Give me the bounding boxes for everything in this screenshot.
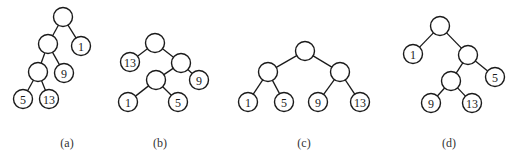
node-label: 9: [61, 67, 67, 81]
nodes-layer: 19513139151591315913: [14, 8, 505, 113]
tree-edge: [447, 33, 462, 48]
tree-edge: [138, 49, 148, 57]
internal-node: [459, 46, 478, 65]
node-circle: [431, 17, 450, 36]
tree-edge: [272, 80, 279, 93]
node-label: 9: [196, 74, 202, 88]
leaf-node: 9: [309, 93, 328, 112]
internal-node: [54, 8, 73, 27]
node-label: 1: [410, 48, 416, 62]
node-circle: [259, 63, 278, 82]
tree-edge: [475, 61, 487, 71]
tree-edge: [276, 56, 296, 68]
internal-node: [296, 42, 315, 61]
node-circle: [39, 35, 58, 54]
tree-edge: [253, 80, 262, 94]
internal-node: [146, 34, 165, 53]
leaf-node: 1: [239, 93, 258, 112]
leaf-node: 5: [14, 90, 33, 109]
node-label: 1: [125, 96, 131, 110]
tree-c-nodes: 15913: [239, 42, 370, 112]
tree-edge: [42, 81, 46, 90]
node-circle: [331, 63, 350, 82]
tree-edge: [188, 70, 192, 74]
tree-edge: [437, 88, 444, 96]
leaf-node: 1: [404, 45, 423, 64]
tree-edge: [324, 80, 335, 95]
caption-d: (d): [442, 136, 456, 150]
node-circle: [172, 54, 191, 73]
internal-node: [172, 54, 191, 73]
captions-layer: (a)(b)(c)(d): [60, 136, 456, 150]
caption-b: (b): [153, 136, 167, 150]
node-label: 5: [492, 71, 498, 85]
tree-edge: [41, 53, 45, 63]
leaf-node: 13: [40, 90, 59, 109]
node-circle: [459, 46, 478, 65]
node-label: 13: [43, 93, 55, 107]
tree-d-nodes: 15913: [404, 17, 505, 113]
tree-edge: [313, 56, 332, 67]
tree-edge: [135, 86, 148, 96]
tree-edge: [420, 33, 434, 47]
leaf-node: 5: [169, 93, 188, 112]
node-label: 5: [281, 96, 287, 110]
tree-edge: [163, 87, 172, 96]
leaf-node: 1: [119, 93, 138, 112]
caption-c: (c): [297, 136, 310, 150]
node-circle: [147, 71, 166, 90]
node-label: 5: [20, 93, 26, 107]
node-circle: [29, 63, 48, 82]
leaf-node: 5: [486, 68, 505, 87]
leaf-node: 9: [190, 71, 209, 90]
tree-edge: [53, 25, 59, 35]
internal-node: [431, 17, 450, 36]
tree-edge: [456, 63, 463, 73]
tree-edge: [53, 52, 60, 64]
node-label: 9: [428, 97, 434, 111]
tree-b-nodes: 13915: [119, 34, 209, 112]
binary-trees-figure: 19513139151591315913 (a)(b)(c)(d): [0, 0, 517, 164]
tree-edge: [68, 25, 76, 38]
internal-node: [147, 71, 166, 90]
node-circle: [442, 72, 461, 91]
tree-edge: [163, 49, 174, 57]
node-label: 13: [466, 97, 478, 111]
leaf-node: 5: [275, 93, 294, 112]
leaf-node: 9: [422, 94, 441, 113]
leaf-node: 13: [351, 93, 370, 112]
node-circle: [146, 34, 165, 53]
leaf-node: 13: [121, 53, 140, 72]
node-label: 13: [354, 96, 366, 110]
leaf-node: 13: [463, 94, 482, 113]
node-label: 5: [175, 96, 181, 110]
node-label: 1: [78, 40, 84, 54]
tree-edge: [164, 68, 173, 74]
node-circle: [54, 8, 73, 27]
node-label: 13: [124, 56, 136, 70]
leaf-node: 9: [55, 64, 74, 83]
internal-node: [442, 72, 461, 91]
internal-node: [331, 63, 350, 82]
tree-edge: [458, 88, 466, 96]
internal-node: [29, 63, 48, 82]
tree-edge: [28, 80, 34, 90]
node-label: 1: [245, 96, 251, 110]
node-circle: [296, 42, 315, 61]
caption-a: (a): [60, 136, 73, 150]
leaf-node: 1: [72, 37, 91, 56]
tree-edge: [345, 80, 354, 94]
tree-a-nodes: 19513: [14, 8, 91, 109]
internal-node: [39, 35, 58, 54]
internal-node: [259, 63, 278, 82]
node-label: 9: [315, 96, 321, 110]
